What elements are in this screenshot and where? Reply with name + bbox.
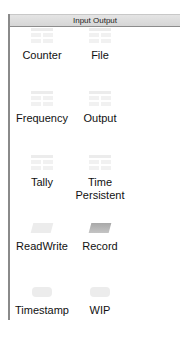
module-wip[interactable]: WIP [70, 283, 130, 317]
rounded-rect-icon [32, 287, 52, 297]
module-tally[interactable]: Tally [12, 155, 72, 189]
module-label: Frequency [12, 112, 72, 125]
table-icon [89, 28, 111, 44]
module-label-line1: Time [88, 176, 112, 188]
input-output-panel: Input Output Counter File Frequency Outp… [8, 14, 180, 320]
table-icon [89, 155, 111, 171]
module-label: Time Persistent [70, 176, 130, 202]
module-label: Tally [12, 176, 72, 189]
table-icon [31, 155, 53, 171]
parallelogram-icon [31, 223, 54, 233]
table-icon [31, 28, 53, 44]
rounded-rect-icon [90, 287, 110, 297]
module-record[interactable]: Record [70, 219, 130, 253]
module-label: Record [70, 240, 130, 253]
module-label: File [70, 49, 130, 62]
module-label-line2: Persistent [76, 189, 125, 201]
module-label: Counter [12, 49, 72, 62]
module-label: Timestamp [12, 304, 72, 317]
module-time-persistent[interactable]: Time Persistent [70, 155, 130, 202]
module-label: Output [70, 112, 130, 125]
module-readwrite[interactable]: ReadWrite [12, 219, 72, 253]
module-frequency[interactable]: Frequency [12, 91, 72, 125]
module-timestamp[interactable]: Timestamp [12, 283, 72, 317]
panel-header[interactable]: Input Output [10, 14, 180, 27]
parallelogram-icon [89, 223, 112, 233]
module-counter[interactable]: Counter [12, 28, 72, 62]
module-label: WIP [70, 304, 130, 317]
module-file[interactable]: File [70, 28, 130, 62]
module-label: ReadWrite [12, 240, 72, 253]
table-icon [89, 91, 111, 107]
table-icon [31, 91, 53, 107]
module-output[interactable]: Output [70, 91, 130, 125]
